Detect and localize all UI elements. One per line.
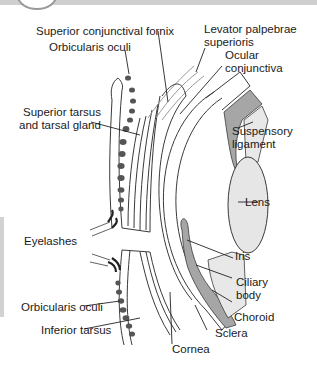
label-cornea: Cornea bbox=[172, 343, 210, 356]
label-sclera: Sclera bbox=[215, 327, 248, 340]
label-eyelashes: Eyelashes bbox=[24, 235, 77, 248]
label-choroid: Choroid bbox=[234, 311, 274, 324]
label-ocular-conjunctiva-line1: Ocular bbox=[225, 49, 259, 62]
label-inferior-tarsus: Inferior tarsus bbox=[41, 324, 111, 337]
label-superior-conjunctival-fornix: Superior conjunctival fornix bbox=[36, 25, 174, 38]
label-superior-tarsus-line1: Superior tarsus bbox=[23, 106, 101, 119]
label-levator-line2: superioris bbox=[204, 36, 254, 49]
label-ciliary-line2: body bbox=[236, 289, 261, 302]
label-lens: Lens bbox=[245, 196, 270, 209]
label-suspensory-line2: ligament bbox=[232, 138, 275, 151]
eyelashes bbox=[108, 210, 120, 272]
label-suspensory-line1: Suspensory bbox=[232, 125, 293, 138]
orbicularis-dots-upper bbox=[117, 75, 136, 211]
label-ocular-conjunctiva-line2: conjunctiva bbox=[225, 62, 283, 75]
label-orbicularis-oculi-lower: Orbicularis oculi bbox=[21, 301, 103, 314]
label-superior-tarsus-line2: and tarsal gland bbox=[19, 119, 101, 132]
label-ciliary-line1: Ciliary bbox=[236, 276, 268, 289]
label-iris: Iris bbox=[235, 250, 250, 263]
orbicularis-dots-lower bbox=[115, 281, 135, 337]
cornea-outer bbox=[163, 92, 214, 310]
label-levator-line1: Levator palpebrae bbox=[204, 23, 297, 36]
lower-eyelid-skin bbox=[122, 250, 150, 252]
label-orbicularis-oculi-upper: Orbicularis oculi bbox=[49, 41, 131, 54]
upper-eyelid-skin bbox=[110, 78, 118, 228]
